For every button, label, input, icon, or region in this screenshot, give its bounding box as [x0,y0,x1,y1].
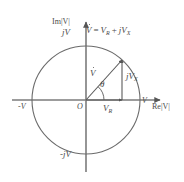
equation-lhs: V [86,26,92,35]
phasor-vector-label: V [90,69,96,78]
axis-marker-top: jV [62,28,70,37]
axis-marker-right: V [142,97,147,105]
imaginary-component-subscript: X [134,76,138,82]
equation-equals: = [94,25,99,35]
axis-marker-left: -V [18,103,26,111]
imaginary-axis-label: Im|V| [52,18,70,26]
imaginary-component-label: jVX [126,72,138,81]
real-component-subscript: R [109,108,113,114]
phasor-equation: V=VR+jVX [86,26,131,35]
origin-label: O [77,103,83,111]
equation-imag-subscript: X [127,30,131,36]
angle-label: θ [100,80,104,89]
axis-marker-bottom: -jV [60,150,71,159]
phasor-diagram-figure: Im|V| Re|V| jV -jV -V V O V=VR+jVX V θ V… [0,0,184,182]
equation-plus: + [112,25,117,35]
equation-real-subscript: R [106,30,110,36]
real-component-label: VR [103,104,112,113]
real-component-symbol: V [103,103,109,113]
real-axis-label: Re|V| [152,103,170,111]
